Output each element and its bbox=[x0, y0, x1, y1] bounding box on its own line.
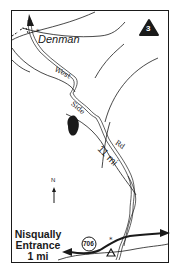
north-arrow-icon bbox=[52, 187, 56, 203]
destination-line-3: 1 mi bbox=[12, 251, 64, 262]
destination-label: Nisqually Entrance 1 mi bbox=[12, 229, 64, 262]
lake-icon bbox=[67, 116, 78, 136]
streams bbox=[12, 12, 168, 260]
route-number: 3 bbox=[146, 24, 150, 33]
north-label: N bbox=[51, 177, 55, 183]
trailhead-star-icon-south: * bbox=[109, 236, 113, 244]
highway-number: 706 bbox=[83, 240, 94, 247]
arrow-right-icon bbox=[160, 229, 170, 237]
peak-icon bbox=[27, 14, 34, 26]
place-label-denman: Denman bbox=[38, 33, 80, 45]
